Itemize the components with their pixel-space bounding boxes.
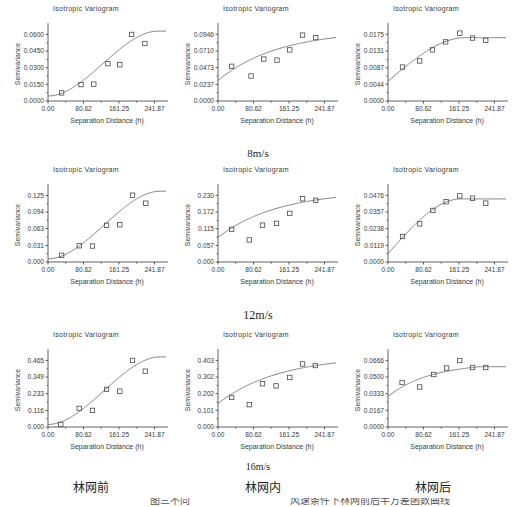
svg-text:0.00: 0.00 <box>382 266 395 273</box>
svg-text:0.00: 0.00 <box>42 266 55 273</box>
x-axis-label: Separation Distance (h) <box>410 443 484 451</box>
data-point-marker <box>274 384 278 388</box>
x-axis-label: Separation Distance (h) <box>240 443 314 451</box>
row-label-8ms: 8m/s <box>0 147 516 159</box>
svg-text:80.62: 80.62 <box>245 431 262 438</box>
model-curve <box>218 197 336 237</box>
svg-text:80.62: 80.62 <box>75 266 92 273</box>
data-point-marker <box>300 197 304 201</box>
svg-text:161.25: 161.25 <box>109 266 130 273</box>
svg-text:80.62: 80.62 <box>415 266 432 273</box>
svg-text:0.00: 0.00 <box>212 431 225 438</box>
model-curve <box>48 357 166 425</box>
model-curve <box>218 363 336 404</box>
data-point-marker <box>274 221 278 225</box>
column-label-after-shelterbelt: 林网后 <box>415 478 451 496</box>
variogram-plot: 0.0000.0570.1150.1720.2300.0080.62161.25… <box>170 161 342 301</box>
data-point-marker <box>260 223 264 227</box>
data-point-marker <box>484 38 488 42</box>
svg-text:0.000: 0.000 <box>27 258 44 265</box>
svg-text:0.349: 0.349 <box>27 373 44 380</box>
data-point-marker <box>288 211 292 215</box>
data-point-marker <box>143 41 147 45</box>
data-point-marker <box>400 380 404 384</box>
data-point-marker <box>458 31 462 35</box>
x-axis-label: Separation Distance (h) <box>240 278 314 286</box>
data-point-marker <box>418 385 422 389</box>
variogram-figure-grid: Isotropic Variogram0.00000.01500.03000.0… <box>0 0 516 507</box>
data-point-marker <box>77 406 81 410</box>
data-point-marker <box>143 369 147 373</box>
variogram-plot: 0.00000.02370.04730.07100.09460.0080.621… <box>170 0 342 140</box>
y-axis-label: Semivariance <box>184 204 191 247</box>
svg-text:0.0150: 0.0150 <box>24 81 45 88</box>
model-curve <box>388 367 506 397</box>
data-point-marker <box>300 33 304 37</box>
data-point-marker <box>484 365 488 369</box>
svg-text:0.125: 0.125 <box>27 192 44 199</box>
data-point-marker <box>484 201 488 205</box>
variogram-plot: 0.00000.01500.03000.04500.06000.0080.621… <box>0 0 172 140</box>
x-axis-label: Separation Distance (h) <box>70 117 144 125</box>
svg-text:0.0000: 0.0000 <box>364 423 385 430</box>
svg-text:0.0476: 0.0476 <box>364 192 385 199</box>
svg-text:0.172: 0.172 <box>197 208 214 215</box>
svg-text:241.87: 241.87 <box>144 431 165 438</box>
data-point-marker <box>118 63 122 67</box>
x-axis-label: Separation Distance (h) <box>70 278 144 286</box>
data-point-marker <box>314 35 318 39</box>
data-point-marker <box>144 201 148 205</box>
svg-text:241.87: 241.87 <box>144 266 165 273</box>
svg-text:0.031: 0.031 <box>27 242 44 249</box>
data-point-marker <box>130 358 134 362</box>
svg-text:80.62: 80.62 <box>415 431 432 438</box>
svg-text:0.0473: 0.0473 <box>194 64 215 71</box>
svg-text:241.87: 241.87 <box>484 266 505 273</box>
svg-text:0.0000: 0.0000 <box>194 97 215 104</box>
svg-text:0.202: 0.202 <box>197 390 214 397</box>
bottom-caption-right: 风速条件下林网前后半方差函数曲线 <box>290 498 450 507</box>
data-point-marker <box>106 61 110 65</box>
svg-text:0.094: 0.094 <box>27 208 44 215</box>
svg-text:0.00: 0.00 <box>212 266 225 273</box>
svg-text:0.233: 0.233 <box>27 390 44 397</box>
variogram-plot: 0.0000.1160.2330.3490.4650.0080.62161.25… <box>0 326 172 466</box>
svg-text:0.000: 0.000 <box>197 258 214 265</box>
data-point-marker <box>118 223 122 227</box>
row-label-12ms: 12m/s <box>0 308 516 323</box>
svg-text:0.0000: 0.0000 <box>364 97 385 104</box>
data-point-marker <box>300 362 304 366</box>
data-point-marker <box>444 366 448 370</box>
y-axis-label: Semivariance <box>14 204 21 247</box>
svg-text:0.057: 0.057 <box>197 242 214 249</box>
model-curve <box>218 38 336 81</box>
data-point-marker <box>288 375 292 379</box>
data-point-marker <box>260 382 264 386</box>
svg-text:0.0087: 0.0087 <box>364 64 385 71</box>
variogram-plot: 0.00000.01670.03330.05000.06660.0080.621… <box>340 326 512 466</box>
y-axis-label: Semivariance <box>184 369 191 412</box>
y-axis-label: Semivariance <box>354 204 361 247</box>
svg-text:0.00: 0.00 <box>382 431 395 438</box>
svg-text:0.00: 0.00 <box>382 105 395 112</box>
svg-text:0.000: 0.000 <box>197 423 214 430</box>
variogram-plot: 0.00000.01190.02380.03570.04760.0080.621… <box>340 161 512 301</box>
svg-text:0.302: 0.302 <box>197 373 214 380</box>
data-point-marker <box>275 58 279 62</box>
variogram-plot: 0.0000.1010.2020.3020.4030.0080.62161.25… <box>170 326 342 466</box>
variogram-panel-r1c1: Isotropic Variogram0.00000.01500.03000.0… <box>0 0 172 140</box>
svg-text:0.0044: 0.0044 <box>364 81 385 88</box>
data-point-marker <box>229 64 233 68</box>
svg-text:161.25: 161.25 <box>109 431 130 438</box>
svg-text:0.0333: 0.0333 <box>364 390 385 397</box>
svg-text:0.0131: 0.0131 <box>364 47 385 54</box>
column-label-inside-shelterbelt: 林网内 <box>245 478 281 496</box>
svg-text:0.0500: 0.0500 <box>364 373 385 380</box>
data-point-marker <box>418 222 422 226</box>
data-point-marker <box>249 74 253 78</box>
data-point-marker <box>470 196 474 200</box>
svg-text:0.00: 0.00 <box>212 105 225 112</box>
y-axis-label: Semivariance <box>354 43 361 86</box>
svg-text:0.465: 0.465 <box>27 357 44 364</box>
svg-text:161.25: 161.25 <box>449 266 470 273</box>
